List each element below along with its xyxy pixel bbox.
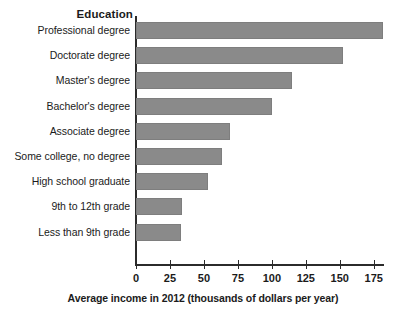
category-label: Some college, no degree bbox=[0, 148, 130, 165]
bar bbox=[136, 173, 208, 190]
category-label: Bachelor's degree bbox=[0, 98, 130, 115]
bar-row bbox=[136, 47, 343, 64]
bar-row bbox=[136, 22, 383, 39]
tick-mark bbox=[306, 260, 307, 269]
bar-row bbox=[136, 148, 222, 165]
bar-row bbox=[136, 224, 181, 241]
tick-label: 125 bbox=[297, 272, 315, 284]
bar bbox=[136, 123, 230, 140]
bar bbox=[136, 72, 292, 89]
bar bbox=[136, 148, 222, 165]
tick-label: 150 bbox=[331, 272, 349, 284]
bar-row bbox=[136, 123, 230, 140]
tick-mark bbox=[136, 260, 137, 269]
tick-mark bbox=[238, 260, 239, 269]
tick-label: 100 bbox=[263, 272, 281, 284]
bar bbox=[136, 198, 182, 215]
bar-row bbox=[136, 198, 182, 215]
category-labels: Professional degreeDoctorate degreeMaste… bbox=[0, 16, 130, 264]
category-label: 9th to 12th grade bbox=[0, 198, 130, 215]
tick-mark bbox=[204, 260, 205, 269]
tick-label: 75 bbox=[232, 272, 244, 284]
value-axis-ticks: 0255075100125150175 bbox=[136, 264, 398, 294]
category-label: Master's degree bbox=[0, 72, 130, 89]
category-label: Less than 9th grade bbox=[0, 224, 130, 241]
bar-row bbox=[136, 72, 292, 89]
tick-mark bbox=[272, 260, 273, 269]
tick-label: 50 bbox=[198, 272, 210, 284]
bar-chart: Education Professional degreeDoctorate d… bbox=[0, 0, 406, 314]
bar-row bbox=[136, 98, 272, 115]
value-axis-title: Average income in 2012 (thousands of dol… bbox=[0, 292, 406, 304]
bars-group bbox=[136, 16, 396, 264]
category-label: Associate degree bbox=[0, 123, 130, 140]
category-label: Doctorate degree bbox=[0, 47, 130, 64]
tick-mark bbox=[170, 260, 171, 269]
tick-label: 175 bbox=[365, 272, 383, 284]
bar bbox=[136, 47, 343, 64]
tick-mark bbox=[374, 260, 375, 269]
tick-label: 25 bbox=[164, 272, 176, 284]
bar-row bbox=[136, 173, 208, 190]
bar bbox=[136, 98, 272, 115]
tick-label: 0 bbox=[133, 272, 139, 284]
bar bbox=[136, 22, 383, 39]
bar bbox=[136, 224, 181, 241]
category-label: High school graduate bbox=[0, 173, 130, 190]
tick-mark bbox=[340, 260, 341, 269]
category-label: Professional degree bbox=[0, 22, 130, 39]
